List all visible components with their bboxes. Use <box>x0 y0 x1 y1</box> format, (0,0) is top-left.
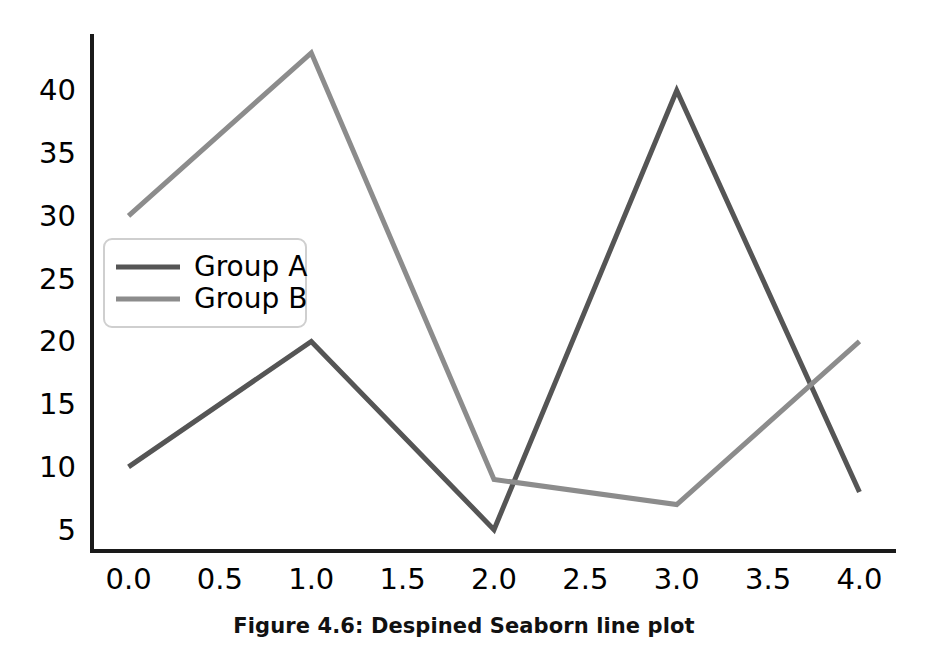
x-axis-tick-labels: 0.00.51.01.52.02.53.03.54.0 <box>105 562 882 596</box>
x-tick-label: 3.0 <box>654 562 700 596</box>
y-tick-label: 5 <box>58 513 76 547</box>
y-tick-label: 30 <box>39 199 76 233</box>
legend-label-group-a: Group A <box>194 250 307 283</box>
y-tick-label: 40 <box>39 73 76 107</box>
line-chart: 510152025303540 0.00.51.01.52.02.53.03.5… <box>0 0 928 668</box>
y-tick-label: 10 <box>39 450 76 484</box>
y-tick-label: 20 <box>39 324 76 358</box>
legend-label-group-b: Group B <box>194 282 307 315</box>
figure-container: 510152025303540 0.00.51.01.52.02.53.03.5… <box>0 0 928 668</box>
x-tick-label: 2.5 <box>562 562 608 596</box>
x-tick-label: 0.5 <box>197 562 243 596</box>
x-tick-label: 1.0 <box>288 562 334 596</box>
y-tick-label: 25 <box>39 262 76 296</box>
x-tick-label: 0.0 <box>105 562 151 596</box>
legend[interactable]: Group AGroup B <box>104 239 307 327</box>
x-tick-label: 2.0 <box>471 562 517 596</box>
y-tick-label: 15 <box>39 387 76 421</box>
x-tick-label: 3.5 <box>745 562 791 596</box>
figure-caption: Figure 4.6: Despined Seaborn line plot <box>0 614 928 638</box>
y-axis-tick-labels: 510152025303540 <box>39 73 76 546</box>
x-tick-label: 1.5 <box>380 562 426 596</box>
x-tick-label: 4.0 <box>836 562 882 596</box>
y-tick-label: 35 <box>39 136 76 170</box>
